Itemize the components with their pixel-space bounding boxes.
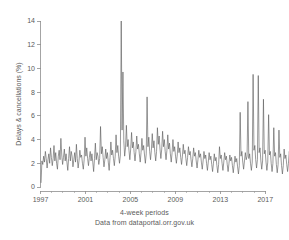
chart-figure: 02468101214 199720012005200920132017 Del… [0,0,289,240]
y-tick-label: 14 [27,17,35,24]
x-tick-label: 2009 [168,196,184,203]
x-tick-label: 1997 [33,196,49,203]
source-note: Data from dataportal.orr.gov.uk [0,219,289,226]
y-tick-label: 0 [31,183,35,190]
y-tick-label: 12 [27,41,35,48]
y-axis-title-text: Delays & cancellations (%) [15,62,23,145]
y-tick-label: 6 [31,112,35,119]
timeseries-plot: 02468101214 199720012005200920132017 Del… [0,0,289,240]
x-tick-label: 2005 [123,196,139,203]
y-tick-label: 10 [27,65,35,72]
x-tick-label: 2017 [257,196,273,203]
y-axis-title: Delays & cancellations (%) [15,62,23,145]
y-tick-label: 2 [31,160,35,167]
x-axis-title: 4-week periods [0,209,289,216]
x-tick-label: 2001 [78,196,94,203]
y-tick-label: 8 [31,89,35,96]
y-tick-label: 4 [31,136,35,143]
plot-background [0,0,289,240]
x-tick-label: 2013 [213,196,229,203]
